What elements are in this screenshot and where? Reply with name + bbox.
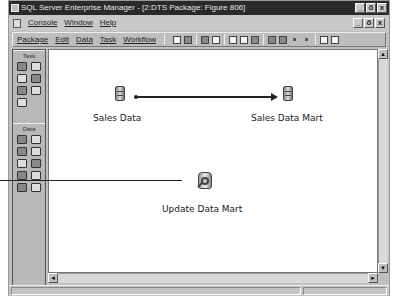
step-icon[interactable] [293, 38, 296, 41]
print-icon[interactable] [201, 36, 209, 44]
data-section: Data [13, 123, 45, 194]
status-bar [9, 285, 389, 296]
html-file-connection-icon[interactable] [31, 183, 41, 192]
access-connection-icon[interactable] [31, 135, 41, 144]
minimize-button[interactable]: _ [355, 3, 365, 13]
node-label-update-data-mart: Update Data Mart [162, 204, 242, 214]
scroll-left-button[interactable]: ◄ [48, 273, 58, 283]
text-file-connection-icon[interactable] [31, 159, 41, 168]
zoom-icon[interactable] [320, 36, 328, 44]
package-toolbar: Package Edit Data Task Workflow [12, 32, 386, 47]
save-icon[interactable] [184, 36, 192, 44]
menu-console[interactable]: Console [28, 15, 57, 31]
open-icon[interactable] [212, 36, 220, 44]
transform-data-arrow[interactable] [136, 96, 272, 98]
excel-connection-icon[interactable] [17, 147, 27, 156]
database-icon [115, 86, 125, 101]
menu-data[interactable]: Data [76, 33, 93, 46]
activex-script-task-icon[interactable] [17, 62, 27, 71]
vertical-scrollbar[interactable]: ▲ ▼ [378, 49, 388, 273]
paste-icon[interactable] [251, 36, 259, 44]
toolbar-separator [196, 34, 197, 45]
execute-sql-task-icon[interactable] [31, 74, 41, 83]
toolbar-separator [224, 34, 225, 45]
menu-package[interactable]: Package [17, 33, 48, 46]
data-driven-query-task-icon[interactable] [17, 86, 27, 95]
other-connection-icon[interactable] [17, 183, 27, 192]
find-icon[interactable] [331, 36, 339, 44]
toolbar-separator [263, 34, 264, 45]
restore-button[interactable]: ő [366, 3, 376, 13]
node-label-sales-data: Sales Data [93, 113, 141, 123]
document-window-controls: _ ő x [353, 18, 385, 28]
step-icon-2[interactable] [305, 38, 308, 41]
document-icon [13, 19, 21, 28]
node-label-sales-data-mart: Sales Data Mart [251, 113, 323, 123]
data-section-title: Data [13, 125, 45, 133]
doc-close-button[interactable]: x [375, 18, 385, 28]
window-title: SQL Server Enterprise Manager - [2:DTS P… [21, 3, 245, 12]
transfer-objects-task-icon[interactable] [31, 62, 41, 71]
menu-window[interactable]: Window [64, 15, 92, 31]
toolbar-icons [173, 34, 339, 45]
close-button[interactable]: x [377, 3, 387, 13]
status-pane-right [303, 287, 387, 295]
data-driven-query-icon [198, 172, 212, 189]
callout-line [0, 180, 182, 181]
new-icon[interactable] [173, 36, 181, 44]
copy-icon[interactable] [240, 36, 248, 44]
execute-process-task-icon[interactable] [17, 74, 27, 83]
send-mail-task-icon[interactable] [17, 98, 27, 107]
sql-server-connection-icon[interactable] [17, 135, 27, 144]
window-controls: _ ő x [355, 3, 387, 13]
toolbar-separator [164, 34, 165, 45]
menu-edit[interactable]: Edit [55, 33, 69, 46]
dbase-connection-icon[interactable] [31, 147, 41, 156]
scroll-right-button[interactable]: ► [368, 273, 378, 283]
scroll-down-button[interactable]: ▼ [378, 263, 388, 273]
execute-icon[interactable] [268, 36, 276, 44]
scroll-up-button[interactable]: ▲ [378, 49, 388, 59]
task-section: Task [13, 50, 45, 109]
horizontal-scrollbar[interactable]: ◄ ► [48, 273, 378, 283]
toolbar-separator [315, 34, 316, 45]
console-menu-bar: Console Window Help _ ő x [9, 15, 389, 31]
doc-minimize-button[interactable]: _ [353, 18, 363, 28]
doc-restore-button[interactable]: ő [364, 18, 374, 28]
odbc-connection-icon[interactable] [31, 171, 41, 180]
status-pane-main [11, 287, 301, 295]
cut-icon[interactable] [229, 36, 237, 44]
arrow-head-icon [271, 93, 278, 101]
menu-help[interactable]: Help [100, 15, 116, 31]
menu-task[interactable]: Task [100, 33, 116, 46]
dts-designer-canvas[interactable]: Sales Data Sales Data Mart Update Data M… [48, 49, 378, 273]
task-section-title: Task [13, 52, 45, 60]
title-bar: SQL Server Enterprise Manager - [2:DTS P… [9, 1, 389, 15]
task-data-palette: Task Data [12, 49, 46, 287]
bulk-insert-task-icon[interactable] [31, 86, 41, 95]
app-icon [11, 4, 19, 12]
database-icon [283, 86, 293, 101]
enterprise-manager-window: SQL Server Enterprise Manager - [2:DTS P… [8, 0, 390, 296]
oracle-connection-icon[interactable] [17, 171, 27, 180]
menu-workflow[interactable]: Workflow [123, 33, 156, 46]
paradox-connection-icon[interactable] [17, 159, 27, 168]
transform-icon[interactable] [279, 36, 287, 44]
